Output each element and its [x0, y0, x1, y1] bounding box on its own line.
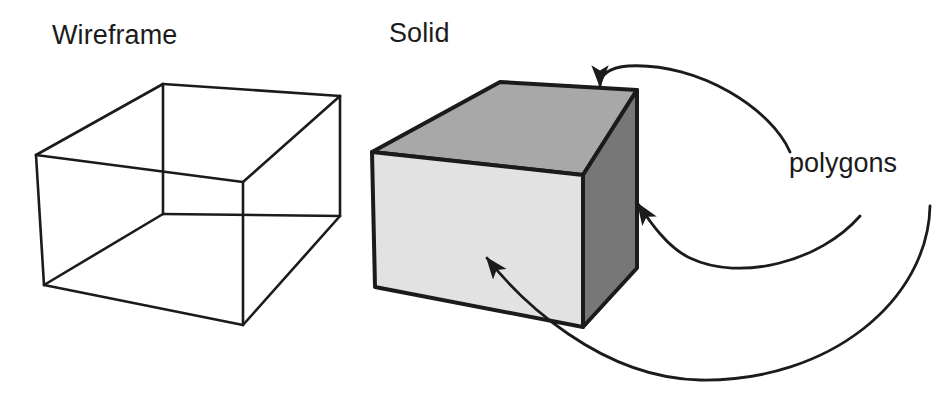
wire-edge-bottom-front	[44, 285, 243, 325]
callout-right-face-arrow	[638, 204, 860, 268]
solid-box	[372, 82, 637, 327]
wire-edge-top-front	[36, 155, 243, 182]
wire-edge-bottom-right	[243, 216, 340, 325]
wire-edge-top-right	[243, 96, 340, 182]
wire-edge-bottom-back	[163, 214, 340, 216]
wire-edge-top-back	[163, 84, 340, 96]
solid-front-face-polygon	[372, 152, 583, 327]
diagram-artwork	[0, 0, 936, 405]
wire-edge-bottom-left	[44, 214, 163, 285]
wire-edge-top-left	[36, 84, 163, 155]
figure-canvas: Wireframe Solid polygons	[0, 0, 936, 405]
wire-edge-vert-front-left	[36, 155, 44, 285]
wireframe-box	[36, 84, 340, 325]
